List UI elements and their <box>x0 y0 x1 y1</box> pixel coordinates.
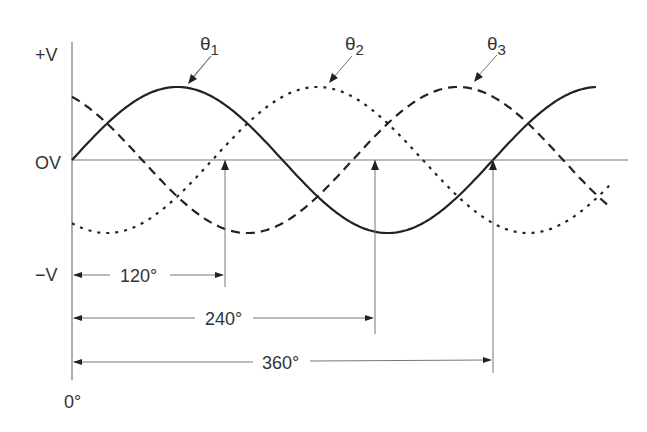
svg-text:360°: 360° <box>262 353 299 373</box>
zero-v-label: OV <box>35 153 61 173</box>
minus-v-label: −V <box>35 265 58 285</box>
theta1-label: θ1 <box>200 33 219 58</box>
marker-120-arrow <box>221 160 229 170</box>
theta3-label: θ3 <box>487 33 506 58</box>
theta2-label: θ2 <box>345 33 364 58</box>
dimension-360: 360° <box>73 353 492 373</box>
plus-v-label: +V <box>35 45 58 65</box>
marker-240-arrow <box>371 160 379 170</box>
svg-text:240°: 240° <box>205 309 242 329</box>
theta2-leader <box>334 56 352 77</box>
origin-label: 0° <box>64 392 81 412</box>
dimension-120: 120° <box>73 266 224 286</box>
theta3-leader <box>479 55 497 75</box>
theta3-arrowhead <box>474 72 483 82</box>
dimension-240: 240° <box>73 309 374 329</box>
phase-diagram: θ1 θ2 θ3 +V OV −V 0° 120° 240° 360° <box>0 0 647 432</box>
svg-text:120°: 120° <box>120 266 157 286</box>
theta1-leader <box>193 56 211 78</box>
